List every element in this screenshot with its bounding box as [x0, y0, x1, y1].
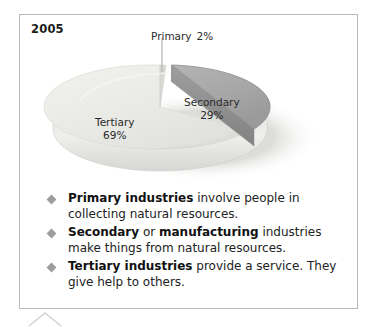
pie-label-primary-value: 2% [197, 30, 214, 42]
pie-label-secondary-name: Secondary [184, 96, 240, 108]
term-primary: Primary industries [68, 191, 193, 205]
pie-label-secondary-value: 29% [200, 109, 223, 121]
conjunction-or: or [139, 225, 159, 239]
figure-panel: 2005 [19, 14, 358, 309]
pie-label-primary-name: Primary [151, 30, 192, 42]
diamond-bullet-icon [47, 195, 57, 205]
list-item-text: Tertiary industries provide a service. T… [68, 259, 347, 290]
pie-label-secondary: Secondary 29% [184, 96, 240, 121]
pie-slice-secondary-wall-left [171, 65, 172, 82]
diamond-bullet-icon [47, 229, 57, 239]
definition-list: Primary industries involve people in col… [20, 191, 358, 293]
pie-label-tertiary: Tertiary 69% [95, 116, 134, 141]
list-item: Tertiary industries provide a service. T… [20, 259, 358, 290]
term-manufacturing: manufacturing [159, 225, 259, 239]
chevron-up-ornament-icon [28, 311, 62, 327]
list-item-text: Secondary or manufacturing industries ma… [68, 225, 347, 256]
diamond-bullet-icon [47, 263, 57, 273]
list-item-text: Primary industries involve people in col… [68, 191, 347, 222]
pie-label-tertiary-name: Tertiary [95, 116, 134, 128]
pie-label-primary: Primary2% [151, 30, 213, 43]
pie-label-tertiary-value: 69% [103, 129, 126, 141]
list-item: Primary industries involve people in col… [20, 191, 358, 222]
list-item: Secondary or manufacturing industries ma… [20, 225, 358, 256]
pie-chart: Primary2% Secondary 29% Tertiary 69% [20, 29, 358, 195]
term-secondary: Secondary [68, 225, 139, 239]
term-tertiary: Tertiary industries [68, 259, 193, 273]
